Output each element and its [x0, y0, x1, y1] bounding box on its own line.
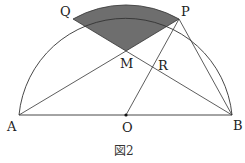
segment-pb — [179, 19, 232, 115]
label-m: M — [120, 56, 133, 71]
label-p: P — [181, 4, 190, 19]
label-o: O — [122, 120, 133, 135]
segment-bm — [126, 51, 232, 115]
label-b: B — [233, 118, 243, 133]
figure-caption: 図2 — [114, 144, 134, 158]
label-a: A — [6, 119, 17, 134]
label-r: R — [158, 58, 169, 73]
segment-am — [19, 51, 126, 115]
label-q: Q — [60, 4, 71, 19]
geometry-figure: Q P M R A O B 図2 — [0, 0, 245, 163]
shaded-sector-qmp — [73, 5, 179, 51]
center-point-o — [124, 113, 127, 116]
